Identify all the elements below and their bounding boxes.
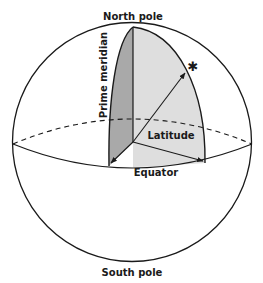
point-marker-icon: ✱ xyxy=(188,59,199,74)
prime-meridian-label: Prime meridian xyxy=(98,32,109,118)
latitude-label: Latitude xyxy=(147,130,194,141)
equator-label: Equator xyxy=(134,167,179,178)
equator-front xyxy=(13,144,252,168)
north-pole-label: North pole xyxy=(103,11,163,22)
latitude-sector xyxy=(133,27,205,167)
south-pole-label: South pole xyxy=(102,267,163,278)
sphere-diagram: ✱ North pole South pole Equator Latitude… xyxy=(0,0,263,283)
